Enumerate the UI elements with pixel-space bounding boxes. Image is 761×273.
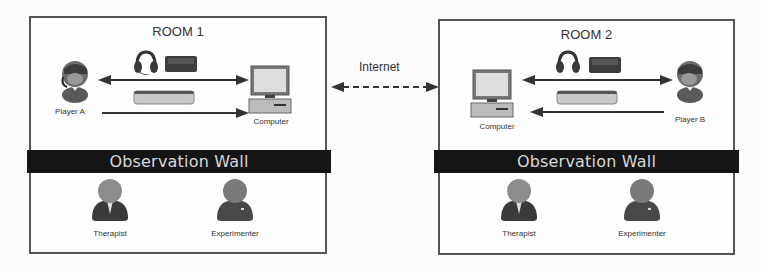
therapist-label: Therapist bbox=[502, 229, 535, 238]
experimenter-label: Experimenter bbox=[211, 229, 259, 238]
room-2-title: ROOM 2 bbox=[440, 27, 733, 42]
computer-label: Computer bbox=[479, 122, 514, 131]
therapist-icon bbox=[499, 178, 539, 222]
player-b-icon bbox=[672, 57, 708, 103]
computer-player-bidirectional-arrow bbox=[534, 79, 662, 81]
tabletop-sensor-icon bbox=[556, 89, 618, 105]
room-2: ROOM 2 bbox=[438, 19, 735, 255]
player-b-label: Player B bbox=[675, 115, 705, 124]
internet-label: Internet bbox=[359, 60, 400, 74]
computer-icon bbox=[248, 64, 292, 116]
experimenter-icon bbox=[622, 178, 662, 222]
experimenter-icon bbox=[215, 178, 255, 222]
game-controller-icon bbox=[164, 54, 198, 74]
therapist-label: Therapist bbox=[93, 229, 126, 238]
headset-icon bbox=[133, 50, 159, 75]
observation-wall-2: Observation Wall bbox=[434, 150, 739, 173]
internet-connection-line bbox=[343, 86, 429, 88]
player-a-icon bbox=[57, 57, 93, 103]
sensor-to-computer-arrow bbox=[102, 112, 238, 114]
player-computer-bidirectional-arrow bbox=[110, 79, 238, 81]
computer-label: Computer bbox=[253, 117, 288, 126]
player-a-label: Player A bbox=[55, 107, 85, 116]
room-1-title: ROOM 1 bbox=[31, 24, 325, 39]
experimenter-label: Experimenter bbox=[618, 229, 666, 238]
game-controller-icon bbox=[588, 55, 622, 75]
room-1: ROOM 1 bbox=[29, 16, 327, 254]
therapist-icon bbox=[90, 178, 130, 222]
sensor-to-computer-arrow bbox=[542, 111, 664, 113]
computer-icon bbox=[470, 68, 514, 120]
observation-wall-1: Observation Wall bbox=[27, 150, 331, 173]
tabletop-sensor-icon bbox=[133, 89, 195, 105]
headset-icon bbox=[555, 50, 581, 75]
